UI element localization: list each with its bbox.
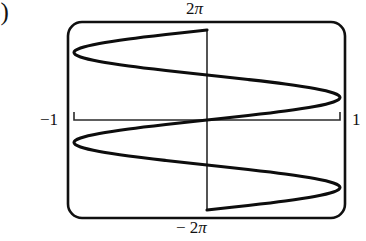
y-axis-min-pi: π [198, 218, 207, 237]
y-axis-max-pi: π [195, 0, 204, 18]
y-axis-min-label: − 2π [176, 218, 207, 238]
part-label: b) [0, 0, 9, 26]
y-axis-max-label: 2π [186, 0, 203, 19]
x-axis-max-label: 1 [352, 110, 361, 130]
x-axis-min-label: −1 [40, 110, 58, 130]
figure-panel: b) 2π − 2π −1 1 [0, 0, 366, 241]
y-axis-min-number: − 2 [176, 218, 198, 237]
y-axis-max-number: 2 [186, 0, 195, 18]
